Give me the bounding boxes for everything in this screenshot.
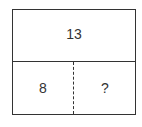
- part-unknown-value: ?: [74, 80, 136, 96]
- part-known-value: 8: [12, 80, 74, 96]
- bar-model-outline: [12, 9, 136, 115]
- whole-value: 13: [12, 26, 136, 42]
- whole-part-divider: [12, 61, 136, 62]
